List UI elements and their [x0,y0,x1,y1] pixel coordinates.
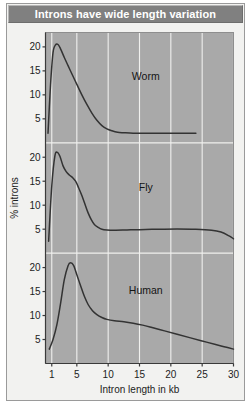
x-axis-tick-label-30: 30 [228,369,240,380]
y-axis-tick-label-panel1-20: 20 [29,41,41,52]
panel-label-worm: Worm [132,70,160,82]
y-axis-tick-label-panel3-5: 5 [35,334,41,345]
y-axis-tick-label-panel2-10: 10 [29,200,41,211]
x-axis-tick-label-5: 5 [74,369,80,380]
x-axis-tick-label-15: 15 [134,369,146,380]
chart-canvas: 201510520151052015105151015202530Intron … [0,0,251,410]
panel-label-human: Human [129,284,163,296]
x-axis-tick-label-1: 1 [49,369,55,380]
x-axis-tick-label-25: 25 [197,369,209,380]
y-axis-tick-label-panel1-15: 15 [29,65,41,76]
y-axis-tick-label-panel1-10: 10 [29,89,41,100]
figure-root: Introns have wide length variation 20151… [0,0,251,410]
x-axis-title: Intron length in kb [100,384,180,395]
y-axis-tick-label-panel3-15: 15 [29,286,41,297]
x-axis-tick-label-20: 20 [165,369,177,380]
y-axis-tick-label-panel1-5: 5 [35,113,41,124]
y-axis-tick-label-panel2-20: 20 [29,152,41,163]
y-axis-tick-label-panel3-10: 10 [29,310,41,321]
panel-label-fly: Fly [139,181,154,193]
y-axis-title: % introns [9,177,20,219]
y-axis-tick-label-panel2-15: 15 [29,176,41,187]
y-axis-tick-label-panel3-20: 20 [29,262,41,273]
y-axis-tick-label-panel2-5: 5 [35,224,41,235]
x-axis-tick-label-10: 10 [103,369,115,380]
